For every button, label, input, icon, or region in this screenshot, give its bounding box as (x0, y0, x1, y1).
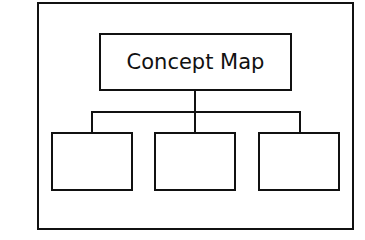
child-node-3-label (260, 134, 338, 189)
child-node-2-label (156, 134, 234, 189)
root-node-label: Concept Map (101, 35, 290, 89)
child-node-1-label (53, 134, 131, 189)
root-node: Concept Map (99, 33, 292, 91)
child-node-2 (154, 132, 236, 191)
child-node-1 (51, 132, 133, 191)
left-connector (91, 111, 93, 133)
right-connector (299, 111, 301, 133)
horizontal-connector (91, 111, 301, 113)
child-node-3 (258, 132, 340, 191)
